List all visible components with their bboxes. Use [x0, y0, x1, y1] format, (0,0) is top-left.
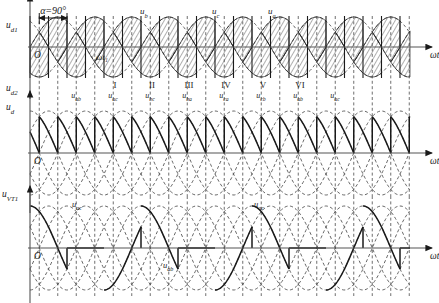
- xlabel-middle: ωt: [430, 156, 439, 166]
- y-label-ud2-text: ud2: [6, 83, 18, 96]
- origin-middle: O: [34, 156, 41, 166]
- y-label-ud: ud: [6, 102, 15, 115]
- ud-segment: [76, 117, 95, 153]
- uvt1-segment-label-ab-1: uab: [163, 260, 173, 272]
- uvt1-blocking-segment: [363, 206, 400, 269]
- ud-segment: [169, 117, 188, 153]
- y-label-uvt1-text: uVT1: [2, 189, 18, 202]
- phase-label-c: uc: [212, 6, 220, 19]
- y-label-uvt1: uVT1: [2, 189, 18, 202]
- uvt1-blocking-segment: [104, 227, 141, 290]
- uvt1-blocking-segment: [252, 206, 289, 269]
- ud-segment: [206, 117, 225, 153]
- interval-roman-1: II: [149, 80, 155, 90]
- origin-upper: O: [34, 50, 41, 60]
- y-label-ud2: ud2: [6, 83, 18, 96]
- ud-segment: [30, 132, 39, 153]
- ud-segment: [372, 117, 391, 153]
- uvt1-blocking-segment: [141, 206, 178, 269]
- ud-segment: [39, 117, 58, 153]
- phase-label-a-text: ua: [268, 6, 276, 19]
- ud-segment: [298, 117, 317, 153]
- uvt1-segment-label-ab-1-text: uab: [163, 260, 173, 272]
- ud-segment: [354, 117, 373, 153]
- uvt1-segment-label-ac-2-text: uac: [254, 199, 264, 211]
- xlabel-lower: ωt: [430, 251, 439, 261]
- uvt1-segment-label-ac-2: uac: [254, 199, 264, 211]
- ud-segment: [261, 117, 280, 153]
- ud-segment: [132, 117, 151, 153]
- ud-segment: [335, 117, 354, 153]
- ud-segment: [58, 117, 77, 153]
- ud-segment: [113, 117, 132, 153]
- interval-roman-4: V: [260, 80, 267, 90]
- interval-roman-0: I: [114, 80, 117, 90]
- interval-roman-2: III: [185, 80, 194, 90]
- interval-roman-3: IV: [221, 80, 231, 90]
- waveform-figure: α=90°ud1ud2uduVT1OωtOωtOωtωt₁ubucuaIIIII…: [0, 0, 439, 303]
- y-label-ud1: ud1: [6, 20, 18, 33]
- phase-label-a: ua: [268, 6, 276, 19]
- uvt1-blocking-segment: [326, 227, 363, 290]
- y-label-ud-text: ud: [6, 102, 15, 115]
- ud-segment: [150, 117, 169, 153]
- uvt1-segment-label-ac-0-text: uac: [72, 199, 82, 211]
- waveform-svg: α=90°ud1ud2uduVT1OωtOωtOωtωt₁ubucuaIIIII…: [0, 0, 439, 303]
- solid-waveform-layer: [30, 117, 410, 290]
- y-label-ud1-text: ud1: [6, 20, 18, 33]
- uvt1-segment-label-ac-0: uac: [72, 199, 82, 211]
- ud-segment: [95, 117, 114, 153]
- ud-segment: [243, 117, 262, 153]
- ud-segment: [317, 117, 336, 153]
- ud-segment: [187, 117, 206, 153]
- phase-label-c-text: uc: [212, 6, 220, 19]
- ud-segment: [280, 117, 299, 153]
- wt1-marker-label: ωt₁: [96, 52, 108, 62]
- interval-roman-5: VI: [295, 80, 305, 90]
- xlabel-upper: ωt: [430, 50, 439, 60]
- ud-segment: [224, 117, 243, 153]
- uvt1-blocking-segment: [215, 227, 252, 290]
- origin-lower: O: [34, 251, 41, 261]
- alpha-annotation: α=90°: [40, 5, 66, 16]
- ud-segment: [391, 117, 410, 153]
